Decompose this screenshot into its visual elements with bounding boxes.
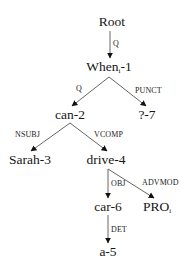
edge-label-drive-pro: ADVMOD	[142, 179, 179, 187]
node-drive-label: drive-4	[87, 152, 126, 167]
node-can-label: can-2	[55, 107, 85, 122]
edge-label-can-drive: VCOMP	[94, 131, 123, 139]
node-when: Wheni-1	[86, 60, 131, 74]
node-root: Root	[99, 15, 125, 29]
node-qmark-label: ?-7	[138, 107, 155, 122]
node-qmark: ?-7	[138, 108, 155, 122]
node-pro-label: PRO	[143, 199, 169, 214]
node-car: car-6	[94, 200, 121, 214]
node-root-label: Root	[99, 14, 125, 29]
node-sarah-label: Sarah-3	[9, 152, 51, 167]
node-when-index: -1	[120, 59, 131, 74]
node-a: a-5	[99, 245, 116, 259]
node-when-label: When	[86, 59, 118, 74]
node-a-label: a-5	[99, 244, 116, 259]
node-can: can-2	[55, 108, 85, 122]
edge-label-root-when: Q	[113, 40, 119, 48]
node-sarah: Sarah-3	[9, 153, 51, 167]
node-pro: PROi	[143, 200, 171, 214]
node-car-label: car-6	[94, 199, 121, 214]
edge-label-can-sarah: NSUBJ	[15, 131, 40, 139]
edge-label-car-a: DET	[111, 226, 127, 234]
node-drive: drive-4	[87, 153, 126, 167]
edge-label-when-qmark: PUNCT	[135, 87, 162, 95]
edge-label-when-can: Q	[76, 85, 82, 93]
node-pro-subscript: i	[169, 207, 171, 215]
edge-label-drive-car: OBJ	[111, 180, 126, 188]
